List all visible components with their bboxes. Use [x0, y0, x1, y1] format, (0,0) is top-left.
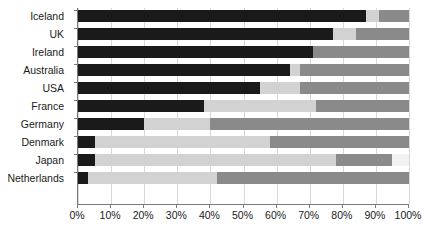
- value-tick: [77, 204, 78, 208]
- bar-segment: [78, 82, 260, 94]
- value-tick-label: 60%: [265, 209, 286, 221]
- value-tick: [176, 204, 177, 208]
- category-tick: [74, 172, 78, 173]
- value-tick: [408, 204, 409, 208]
- value-tick: [276, 204, 277, 208]
- bar-segment: [210, 118, 409, 130]
- category-label: Germany: [0, 118, 70, 130]
- value-tick-label: 80%: [331, 209, 352, 221]
- category-label: Japan: [0, 154, 70, 166]
- bar-segment: [78, 136, 95, 148]
- stacked-bar-chart: IcelandUKIrelandAustraliaUSAFranceGerman…: [0, 0, 425, 233]
- bar-row: [78, 136, 409, 148]
- category-label: UK: [0, 28, 70, 40]
- bar-series-container: [78, 10, 409, 190]
- bar-row: [78, 46, 409, 58]
- plot-area: [77, 8, 409, 205]
- value-tick: [342, 204, 343, 208]
- bar-segment: [95, 154, 337, 166]
- category-tick: [74, 10, 78, 11]
- bar-segment: [78, 100, 204, 112]
- bar-segment: [78, 64, 290, 76]
- bar-segment: [316, 100, 409, 112]
- category-label: USA: [0, 82, 70, 94]
- bar-segment: [217, 172, 409, 184]
- bar-segment: [88, 172, 217, 184]
- category-label: France: [0, 100, 70, 112]
- bar-segment: [78, 28, 333, 40]
- bar-segment: [300, 64, 409, 76]
- value-tick-label: 70%: [298, 209, 319, 221]
- bar-segment: [78, 10, 366, 22]
- category-tick: [74, 100, 78, 101]
- value-tick: [309, 204, 310, 208]
- gridline: [409, 8, 410, 204]
- value-tick: [143, 204, 144, 208]
- category-tick: [74, 28, 78, 29]
- bar-row: [78, 82, 409, 94]
- bar-segment: [300, 82, 409, 94]
- category-label: Ireland: [0, 46, 70, 58]
- category-tick: [74, 136, 78, 137]
- value-tick-label: 40%: [199, 209, 220, 221]
- bar-segment: [313, 46, 409, 58]
- category-tick: [74, 64, 78, 65]
- value-tick-label: 10%: [100, 209, 121, 221]
- bar-row: [78, 172, 409, 184]
- category-label: Denmark: [0, 136, 70, 148]
- bar-segment: [392, 154, 409, 166]
- bar-segment: [356, 28, 409, 40]
- bar-segment: [290, 64, 300, 76]
- value-tick-label: 0%: [69, 209, 84, 221]
- value-tick-label: 90%: [364, 209, 385, 221]
- category-axis-labels: IcelandUKIrelandAustraliaUSAFranceGerman…: [0, 10, 70, 190]
- category-tick: [74, 154, 78, 155]
- bar-segment: [78, 118, 144, 130]
- bar-segment: [336, 154, 392, 166]
- bar-segment: [78, 172, 88, 184]
- category-label: Australia: [0, 64, 70, 76]
- bar-row: [78, 118, 409, 130]
- value-tick-label: 20%: [133, 209, 154, 221]
- bar-segment: [333, 28, 356, 40]
- value-tick: [209, 204, 210, 208]
- bar-row: [78, 100, 409, 112]
- category-label: Netherlands: [0, 172, 70, 184]
- value-axis-labels: 0%10%20%30%40%50%60%70%80%90%100%: [77, 209, 408, 225]
- bar-segment: [144, 118, 210, 130]
- bar-segment: [270, 136, 409, 148]
- value-tick-label: 30%: [166, 209, 187, 221]
- bar-segment: [95, 136, 270, 148]
- bar-row: [78, 10, 409, 22]
- value-tick: [243, 204, 244, 208]
- category-tick: [74, 46, 78, 47]
- bar-row: [78, 64, 409, 76]
- value-tick-label: 50%: [232, 209, 253, 221]
- category-tick: [74, 118, 78, 119]
- bar-segment: [260, 82, 300, 94]
- bar-segment: [379, 10, 409, 22]
- value-tick: [375, 204, 376, 208]
- category-tick: [74, 82, 78, 83]
- bar-segment: [78, 154, 95, 166]
- value-tick: [110, 204, 111, 208]
- bar-row: [78, 28, 409, 40]
- category-label: Iceland: [0, 10, 70, 22]
- bar-row: [78, 154, 409, 166]
- bar-segment: [78, 46, 313, 58]
- value-tick-label: 100%: [395, 209, 422, 221]
- bar-segment: [204, 100, 317, 112]
- bar-segment: [366, 10, 379, 22]
